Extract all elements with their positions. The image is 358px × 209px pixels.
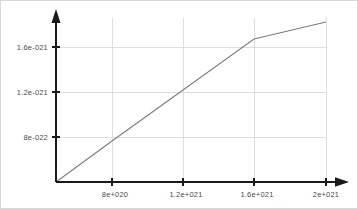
line-chart-plot: 1.6e-021 1.2e-021 8e-022 8e+020 1.2e+021… xyxy=(1,1,358,209)
y-tick-label-2: 1.2e-021 xyxy=(17,88,48,97)
chart-screenshot: 1.6e-021 1.2e-021 8e-022 8e+020 1.2e+021… xyxy=(0,0,358,209)
x-tick-label-4: 2e+021 xyxy=(313,190,339,199)
x-tick-label-1: 8e+020 xyxy=(102,190,128,199)
plot-background xyxy=(1,1,358,209)
y-tick-label-3: 8e-022 xyxy=(23,133,48,142)
x-tick-label-2: 1.2e+021 xyxy=(169,190,202,199)
y-tick-label-1: 1.6e-021 xyxy=(17,43,48,52)
x-tick-label-3: 1.6e+021 xyxy=(240,190,273,199)
